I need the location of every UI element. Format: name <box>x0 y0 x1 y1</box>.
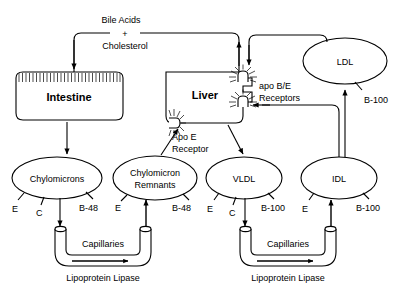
vldl-label: VLDL <box>233 174 256 184</box>
ldl-label: LDL <box>337 57 354 67</box>
chylomicron-remnants-label-line2: Remnants <box>134 180 176 190</box>
chylomicron-remnants-label-line1: Chylomicron <box>130 168 180 178</box>
idl-uptake-pathway <box>253 105 339 157</box>
bile-acids-label: Bile Acids <box>101 15 141 25</box>
chylomicrons-label: Chylomicrons <box>30 174 85 184</box>
chylomicrons-apo-e: E <box>12 204 18 214</box>
plus-sign: + <box>122 29 127 39</box>
bile-acid-pathway <box>74 33 239 72</box>
capillaries-label-left: Capillaries <box>82 239 125 249</box>
capillaries-label-right: Capillaries <box>267 239 310 249</box>
diagram-canvas: Bile Acids + Cholesterol Intestine Liver… <box>0 0 395 291</box>
lipoprotein-lipase-label-left: Lipoprotein Lipase <box>66 273 140 283</box>
lipoprotein-lipase-label-right: Lipoprotein Lipase <box>251 273 325 283</box>
ldl-apo-b100-label: B-100 <box>364 95 388 105</box>
idl-apo-b100: B-100 <box>356 203 380 213</box>
intestine-label: Intestine <box>46 91 91 103</box>
chylomicrons-apo-b48: B-48 <box>79 203 98 213</box>
idl-apo-e: E <box>302 204 308 214</box>
apo-e-receptor-label-line2: Receptor <box>172 144 209 154</box>
chylomicrons-apo-c: C <box>36 208 43 218</box>
remnants-apo-b48: B-48 <box>172 203 191 213</box>
idl-label: IDL <box>332 174 346 184</box>
liver-label: Liver <box>192 89 219 101</box>
vldl-apo-e: E <box>207 204 213 214</box>
remnants-apo-e: E <box>115 203 121 213</box>
liver-to-vldl-arrow <box>228 125 243 154</box>
cholesterol-label: Cholesterol <box>102 41 148 51</box>
lipoprotein-metabolism-diagram: Bile Acids + Cholesterol Intestine Liver… <box>0 0 395 291</box>
apo-be-receptors-label-line1: apo B/E <box>259 81 291 91</box>
vldl-apo-c: C <box>229 208 236 218</box>
apo-be-receptors-label-line2: Receptors <box>259 93 301 103</box>
vldl-apo-b100: B-100 <box>261 203 285 213</box>
chylomicron-remnants-particle <box>113 156 197 200</box>
